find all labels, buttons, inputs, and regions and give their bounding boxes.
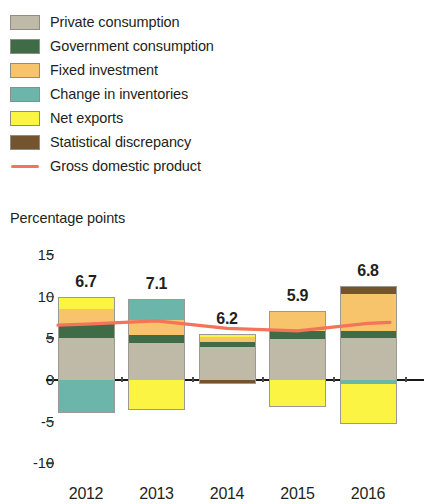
bar-segment: [340, 338, 397, 380]
bar-segment: [340, 294, 397, 331]
bar-group: [58, 0, 115, 504]
y-axis-tick-mark: [46, 338, 54, 340]
bar-segment: [340, 331, 397, 339]
bar-segment: [58, 380, 115, 413]
bar-segment: [58, 309, 115, 324]
bar-segment: [199, 334, 256, 337]
bar-segment: [269, 331, 326, 339]
x-axis-tick-label: 2012: [51, 486, 121, 502]
bar-value-label: 6.2: [197, 311, 257, 327]
bar-segment: [128, 299, 185, 320]
y-axis-tick-mark: [46, 296, 54, 298]
bar-value-label: 6.8: [338, 263, 398, 279]
x-axis-minor-tick: [52, 377, 54, 382]
x-axis-minor-tick: [121, 377, 123, 382]
x-axis-tick-label: 2015: [263, 486, 333, 502]
bar-segment: [128, 380, 185, 410]
bar-group: [269, 0, 326, 504]
y-axis-tick-mark: [46, 463, 54, 465]
x-axis-minor-tick: [405, 377, 407, 382]
y-axis-tick-mark: [46, 421, 54, 423]
bar-value-label: 6.7: [56, 274, 116, 290]
bar-segment: [199, 342, 256, 346]
bar-segment: [199, 347, 256, 380]
x-axis-tick-label: 2016: [333, 486, 403, 502]
x-axis-tick-label: 2014: [192, 486, 262, 502]
bar-segment: [340, 286, 397, 294]
bar-value-label: 5.9: [268, 288, 328, 304]
x-axis-minor-tick: [192, 377, 194, 382]
x-axis-tick-label: 2013: [122, 486, 192, 502]
bar-segment: [199, 337, 256, 343]
bar-group: [199, 0, 256, 504]
x-axis-minor-tick: [262, 377, 264, 382]
bar-group: [128, 0, 185, 504]
bar-segment: [58, 297, 115, 310]
bar-segment: [269, 339, 326, 380]
bar-segment: [199, 380, 256, 384]
bar-segment: [269, 380, 326, 407]
y-axis-tick-mark: [46, 254, 54, 256]
bar-chart-plot: 151050-5-10 6.77.16.25.96.8 201220132014…: [0, 0, 424, 504]
bar-group: [340, 0, 397, 504]
x-axis-minor-tick: [333, 377, 335, 382]
bar-segment: [58, 324, 115, 338]
bar-segment: [128, 343, 185, 380]
bar-segment: [58, 338, 115, 380]
bar-segment: [128, 320, 185, 335]
bar-segment: [340, 384, 397, 424]
bar-segment: [269, 311, 326, 331]
bar-segment: [128, 335, 185, 343]
bar-value-label: 7.1: [127, 276, 187, 292]
